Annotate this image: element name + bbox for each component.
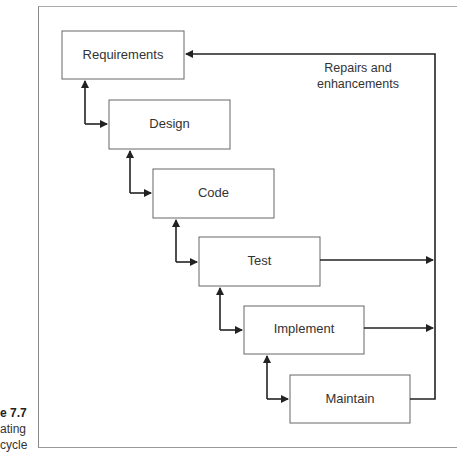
stage-label-maintain: Maintain — [290, 391, 410, 406]
stage-label-test: Test — [199, 253, 320, 268]
stage-label-implement: Implement — [244, 321, 364, 336]
stage-label-requirements: Requirements — [62, 47, 184, 62]
feedback-note-line-2: enhancements — [312, 76, 404, 92]
feedback-note: Repairs and enhancements — [312, 60, 404, 92]
stage-label-code: Code — [153, 185, 274, 200]
stage-label-design: Design — [109, 116, 230, 131]
feedback-note-line-1: Repairs and — [312, 60, 404, 76]
